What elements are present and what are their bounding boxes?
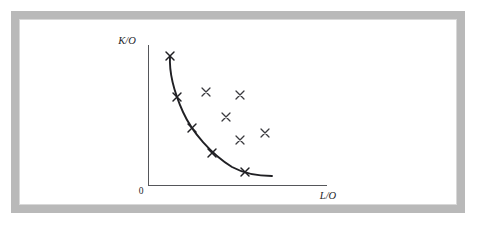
scatter-marker xyxy=(236,91,244,99)
scatter-marker-group xyxy=(202,88,269,144)
curve-marker-group xyxy=(166,52,249,176)
origin-label: 0 xyxy=(139,186,144,196)
figure-root: K/O L/O 0 xyxy=(0,0,478,233)
y-axis-label: K/O xyxy=(117,35,136,46)
curve-marker xyxy=(188,124,196,132)
scatter-chart: K/O L/O 0 xyxy=(0,0,478,233)
scatter-marker xyxy=(222,113,230,121)
scatter-marker xyxy=(261,129,269,137)
scatter-marker xyxy=(236,136,244,144)
plot-area: K/O L/O 0 xyxy=(0,0,478,233)
x-axis-label: L/O xyxy=(319,190,337,201)
scatter-marker xyxy=(202,88,210,96)
frontier-curve xyxy=(170,56,272,176)
